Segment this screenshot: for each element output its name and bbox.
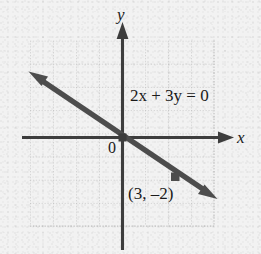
coordinate-plane	[0, 0, 261, 254]
equation-label: 2x + 3y = 0	[130, 87, 209, 104]
origin-point-marker	[119, 134, 127, 142]
graph-figure: y x 0 2x + 3y = 0 (3, –2)	[0, 0, 261, 254]
origin-label: 0	[108, 140, 116, 156]
y-axis-label: y	[117, 6, 125, 23]
plotted-point-marker	[171, 173, 180, 182]
point-coordinate-label: (3, –2)	[128, 185, 173, 202]
x-axis-label: x	[237, 129, 245, 146]
